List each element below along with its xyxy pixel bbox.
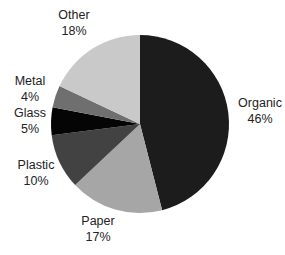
label-organic-name: Organic [234, 95, 285, 111]
pie-slices [51, 35, 229, 213]
label-glass: Glass 5% [12, 105, 48, 137]
label-plastic-pct: 10% [14, 173, 58, 189]
label-metal: Metal 4% [12, 73, 48, 105]
label-paper: Paper 17% [78, 213, 118, 245]
label-organic: Organic 46% [234, 95, 285, 127]
label-plastic-name: Plastic [14, 157, 58, 173]
label-other-pct: 18% [52, 23, 96, 39]
label-organic-pct: 46% [234, 111, 285, 127]
label-plastic: Plastic 10% [14, 157, 58, 189]
label-metal-name: Metal [12, 73, 48, 89]
label-paper-name: Paper [78, 213, 118, 229]
label-other: Other 18% [52, 7, 96, 39]
label-glass-name: Glass [12, 105, 48, 121]
label-metal-pct: 4% [12, 89, 48, 105]
label-other-name: Other [52, 7, 96, 23]
label-paper-pct: 17% [78, 229, 118, 245]
label-glass-pct: 5% [12, 121, 48, 137]
